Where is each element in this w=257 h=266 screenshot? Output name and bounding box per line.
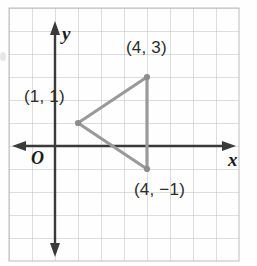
vertex-point-4-3	[144, 74, 150, 80]
grid-lines	[9, 8, 239, 261]
point-label-4-neg1: (4, −1)	[134, 180, 185, 200]
point-label-1-1: (1, 1)	[24, 87, 65, 107]
point-label-4-3: (4, 3)	[126, 38, 167, 58]
y-axis-label: y	[62, 23, 70, 45]
vertex-point-1-1	[75, 120, 81, 126]
graph-screenshot: (1, 1) (4, 3) (4, −1) y x O	[0, 0, 257, 266]
vertex-point-4-neg1	[144, 166, 150, 172]
x-axis-label: x	[228, 149, 238, 171]
origin-label: O	[31, 148, 44, 169]
